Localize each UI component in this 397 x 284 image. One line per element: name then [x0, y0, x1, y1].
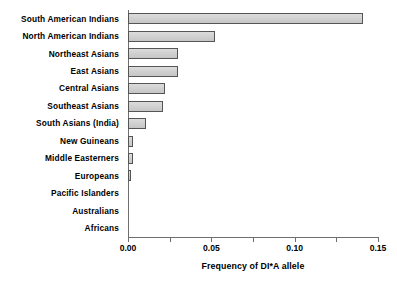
bar[interactable]	[128, 13, 363, 24]
bar[interactable]	[128, 153, 133, 164]
bar[interactable]	[128, 118, 146, 129]
bar[interactable]	[128, 31, 215, 42]
x-axis-tick-labels: 0.000.050.100.15	[128, 244, 378, 256]
category-label: Middle Easterners	[0, 150, 124, 167]
category-label: Central Asians	[0, 80, 124, 97]
category-label: East Asians	[0, 62, 124, 79]
x-axis-tick	[295, 237, 296, 242]
x-axis-tick-label: 0.10	[286, 244, 303, 253]
category-label: South American Indians	[0, 10, 124, 27]
x-axis-title: Frequency of DI*A allele	[128, 261, 378, 271]
category-label: Africans	[0, 220, 124, 237]
category-label: North American Indians	[0, 27, 124, 44]
bar-row	[128, 150, 378, 167]
category-label: New Guineans	[0, 132, 124, 149]
bar-row	[128, 45, 378, 62]
bar-row	[128, 220, 378, 237]
bar[interactable]	[128, 101, 163, 112]
category-axis-labels: South American IndiansNorth American Ind…	[0, 10, 124, 237]
bar-row	[128, 132, 378, 149]
bar[interactable]	[128, 66, 178, 77]
bar-row	[128, 27, 378, 44]
plot-area	[128, 10, 378, 237]
bar-row	[128, 202, 378, 219]
category-label: Pacific Islanders	[0, 185, 124, 202]
x-axis-minor-tick	[170, 237, 171, 242]
x-axis-tick-label: 0.05	[203, 244, 220, 253]
bar-row	[128, 10, 378, 27]
bar-chart: South American IndiansNorth American Ind…	[0, 0, 397, 284]
category-label: Europeans	[0, 167, 124, 184]
bar[interactable]	[128, 48, 178, 59]
x-axis-tick-label: 0.15	[370, 244, 387, 253]
bar[interactable]	[128, 83, 165, 94]
bar-row	[128, 62, 378, 79]
bar-row	[128, 167, 378, 184]
bar[interactable]	[128, 136, 133, 147]
bar[interactable]	[128, 170, 131, 181]
bar-row	[128, 80, 378, 97]
x-axis-tick	[378, 237, 379, 242]
category-label: Northeast Asians	[0, 45, 124, 62]
bar-rows	[128, 10, 378, 237]
bar-row	[128, 115, 378, 132]
x-axis-minor-tick	[253, 237, 254, 242]
x-axis-minor-tick	[336, 237, 337, 242]
category-label: Australians	[0, 202, 124, 219]
x-axis-tick	[211, 237, 212, 242]
bar-row	[128, 97, 378, 114]
x-axis-tick	[128, 237, 129, 242]
category-label: Southeast Asians	[0, 97, 124, 114]
x-axis-tick-label: 0.00	[120, 244, 137, 253]
category-label: South Asians (India)	[0, 115, 124, 132]
x-axis-ticks	[128, 237, 378, 243]
bar-row	[128, 185, 378, 202]
